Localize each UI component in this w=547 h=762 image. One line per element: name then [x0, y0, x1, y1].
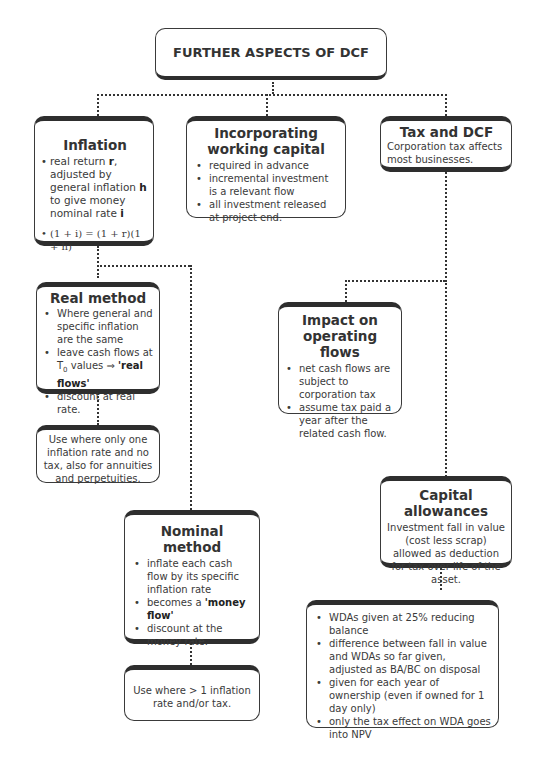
- capital-allowances-text: Investment fall in value (cost less scra…: [385, 521, 507, 586]
- connector: [190, 265, 192, 530]
- operating-flows-item: net cash flows are subject to corporatio…: [283, 362, 397, 401]
- operating-flows-item: assume tax paid a year after the related…: [283, 401, 397, 440]
- real-method-node: Real method Where general and specific i…: [36, 282, 160, 394]
- nominal-method-node: Nominal method inflate each cash flow by…: [124, 510, 260, 644]
- nominal-method-title: Nominal method: [131, 523, 253, 555]
- working-capital-item: incremental investment is a relevant flo…: [193, 172, 339, 198]
- wda-item: only the tax effect on WDA goes into NPV: [313, 715, 492, 741]
- tax-dcf-text: Corporation tax affects most businesses.: [387, 140, 506, 166]
- connector: [445, 280, 447, 480]
- real-method-item: Where general and specific inflation are…: [41, 307, 155, 346]
- wda-item: given for each year of ownership (even i…: [313, 676, 492, 715]
- real-use-text: Use where only one inflation rate and no…: [41, 433, 155, 485]
- connector: [266, 94, 268, 116]
- connector: [445, 94, 447, 116]
- inflation-title: Inflation: [41, 137, 149, 153]
- real-method-item: discount at real rate.: [41, 390, 155, 416]
- operating-flows-title: Impact on operating flows: [283, 312, 397, 360]
- nominal-method-item: becomes a 'money flow': [131, 596, 253, 622]
- tax-dcf-node: Tax and DCF Corporation tax affects most…: [380, 116, 512, 172]
- working-capital-node: Incorporating working capital required i…: [186, 116, 346, 218]
- connector: [445, 172, 447, 282]
- nominal-method-item: inflate each cash flow by its specific i…: [131, 557, 253, 596]
- working-capital-title: Incorporating working capital: [193, 125, 339, 157]
- inflation-formula: (1 + i) = (1 + r)(1 + h): [41, 227, 149, 253]
- nominal-method-item: discount at the money rate.: [131, 622, 253, 648]
- working-capital-item: all investment released at project end.: [193, 198, 339, 224]
- inflation-node: Inflation real return r, adjusted by gen…: [34, 116, 154, 246]
- capital-allowances-node: Capital allowances Investment fall in va…: [380, 476, 512, 568]
- wda-item: difference between fall in value and WDA…: [313, 637, 492, 676]
- wda-node: WDAs given at 25% reducing balance diffe…: [306, 600, 499, 728]
- connector: [97, 265, 190, 267]
- operating-flows-node: Impact on operating flows net cash flows…: [278, 302, 402, 414]
- connector: [97, 94, 99, 116]
- capital-allowances-title: Capital allowances: [385, 487, 507, 519]
- real-use-node: Use where only one inflation rate and no…: [36, 425, 160, 483]
- wda-item: WDAs given at 25% reducing balance: [313, 611, 492, 637]
- root-node: FURTHER ASPECTS OF DCF: [155, 28, 387, 80]
- connector: [272, 82, 274, 94]
- real-method-item: leave cash flows at T0 values ⇒ 'real fl…: [41, 346, 155, 390]
- connector: [97, 94, 447, 96]
- working-capital-item: required in advance: [193, 159, 339, 172]
- tax-dcf-title: Tax and DCF: [387, 124, 506, 140]
- inflation-item: real return r, adjusted by general infla…: [41, 155, 149, 220]
- connector: [345, 280, 445, 282]
- nominal-use-node: Use where > 1 inflation rate and/or tax.: [124, 665, 260, 721]
- nominal-use-text: Use where > 1 inflation rate and/or tax.: [129, 684, 255, 710]
- real-method-title: Real method: [41, 290, 155, 306]
- connector: [345, 280, 347, 302]
- root-title: FURTHER ASPECTS OF DCF: [156, 29, 386, 77]
